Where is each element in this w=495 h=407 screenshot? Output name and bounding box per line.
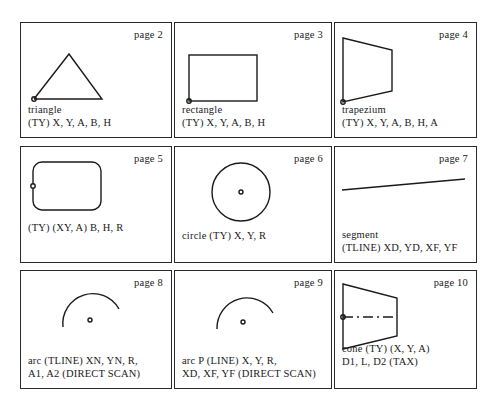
caption-line-1: (TY) (XY, A) B, H, R: [28, 222, 123, 235]
caption-line-1: cone (TY) (X, Y, A): [342, 343, 430, 356]
panel-cone: page 10 cone (TY) (X, Y, A) D1, L, D2 (T…: [334, 270, 477, 389]
caption-line-2: (TY) X, Y, A, B, H, A: [342, 117, 438, 130]
caption-line-1: triangle: [28, 104, 111, 117]
caption-line-1: segment: [342, 229, 458, 242]
caption: arc P (LINE) X, Y, R, XD, XF, YF (DIRECT…: [182, 355, 316, 380]
caption-line-1: trapezium: [342, 104, 438, 117]
panel-rectangle: page 3 rectangle (TY) X, Y, A, B, H: [174, 22, 332, 138]
caption-line-2: D1, L, D2 (TAX): [342, 356, 430, 369]
caption-line-1: circle (TY) X, Y, R: [182, 230, 266, 243]
caption: arc (TLINE) XN, YN, R, A1, A2 (DIRECT SC…: [28, 355, 140, 380]
caption: triangle (TY) X, Y, A, B, H: [28, 104, 111, 129]
caption-line-1: rectangle: [182, 104, 265, 117]
caption-line-2: A1, A2 (DIRECT SCAN): [28, 368, 140, 381]
caption: cone (TY) (X, Y, A) D1, L, D2 (TAX): [342, 343, 430, 368]
panel-circle: page 6 circle (TY) X, Y, R: [174, 146, 332, 263]
panel-triangle: page 2 triangle (TY) X, Y, A, B, H: [20, 22, 172, 138]
caption: segment (TLINE) XD, YD, XF, YF: [342, 229, 458, 254]
caption-line-2: XD, XF, YF (DIRECT SCAN): [182, 368, 316, 381]
rounded-rectangle-icon: [21, 147, 173, 264]
caption-line-2: (TY) X, Y, A, B, H: [182, 117, 265, 130]
caption: circle (TY) X, Y, R: [182, 230, 266, 243]
caption: (TY) (XY, A) B, H, R: [28, 222, 123, 235]
caption-line-2: (TY) X, Y, A, B, H: [28, 117, 111, 130]
panel-arc-p: page 9 arc P (LINE) X, Y, R, XD, XF, YF …: [174, 270, 332, 389]
circle-icon: [175, 147, 333, 264]
caption: rectangle (TY) X, Y, A, B, H: [182, 104, 265, 129]
panel-rounded-rectangle: page 5 (TY) (XY, A) B, H, R: [20, 146, 172, 263]
panel-segment: page 7 segment (TLINE) XD, YD, XF, YF: [334, 146, 477, 263]
caption: trapezium (TY) X, Y, A, B, H, A: [342, 104, 438, 129]
panel-arc: page 8 arc (TLINE) XN, YN, R, A1, A2 (DI…: [20, 270, 172, 389]
cone-icon: [335, 271, 478, 390]
caption-line-2: (TLINE) XD, YD, XF, YF: [342, 242, 458, 255]
panel-trapezium: page 4 trapezium (TY) X, Y, A, B, H, A: [334, 22, 477, 138]
caption-line-1: arc (TLINE) XN, YN, R,: [28, 355, 140, 368]
caption-line-1: arc P (LINE) X, Y, R,: [182, 355, 316, 368]
